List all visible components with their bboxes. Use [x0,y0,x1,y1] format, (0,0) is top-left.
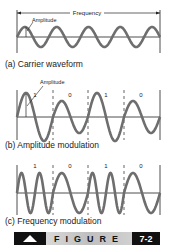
amplitude-label-b: Amplitude [40,79,64,85]
figure-diagram: Frequency Amplitude Amplitude 1 0 1 0 1 … [0,0,171,248]
figure-banner: FIGURE 7-2 [14,232,160,245]
bit-label: 1 [33,92,37,98]
frequency-modulation-panel [17,165,160,215]
banner-word: FIGURE [46,232,132,245]
amplitude-label-a: Amplitude [32,17,56,23]
bit-label: 0 [68,163,72,169]
bit-label: 1 [33,163,37,169]
frequency-label: Frequency [73,10,101,16]
caption-fm: (c) Frequency modulation [5,216,101,226]
bit-label: 1 [104,92,108,98]
caption-carrier: (a) Carrier waveform [5,59,83,69]
triangle-icon [23,235,37,242]
bit-label: 0 [139,163,143,169]
bit-label: 0 [68,92,72,98]
caption-am: (b) Amplitude modulation [5,140,99,150]
figure-number: 7-2 [132,232,160,245]
bit-label: 1 [104,163,108,169]
bit-label: 0 [139,92,143,98]
banner-arrow [14,232,46,245]
